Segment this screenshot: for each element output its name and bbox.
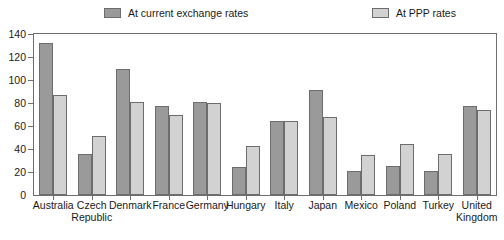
x-tick-label: Japan [308, 199, 337, 211]
bar-group [155, 34, 183, 195]
x-tick-mark [477, 196, 478, 200]
x-tick-label: CzechRepublic [71, 199, 112, 223]
x-tick-label-line: United [462, 199, 492, 211]
bar [155, 106, 169, 195]
x-tick-label: Italy [275, 199, 294, 211]
bar [53, 95, 67, 195]
legend-swatch-icon-series-0 [104, 8, 121, 18]
x-tick-mark [130, 196, 131, 200]
bar-group [309, 34, 337, 195]
x-tick-label: Australia [33, 199, 74, 211]
x-tick-label-line: Australia [33, 199, 74, 211]
x-tick-label-line: Mexico [345, 199, 378, 211]
x-tick-label-line: Kingdom [456, 211, 497, 223]
bar [347, 171, 361, 195]
x-tick-label: France [152, 199, 185, 211]
bar [116, 69, 130, 196]
bar-group [78, 34, 106, 195]
bar-group [347, 34, 375, 195]
x-tick-label: Turkey [422, 199, 454, 211]
chart-legend: At current exchange rates At PPP rates [0, 7, 504, 25]
bar [323, 117, 337, 195]
bar-group [116, 34, 144, 195]
x-tick-label-line: Czech [77, 199, 107, 211]
bar [207, 103, 221, 195]
x-tick-mark [92, 196, 93, 200]
x-tick-mark [323, 196, 324, 200]
bar-groups [34, 34, 496, 195]
x-tick-label: Mexico [345, 199, 378, 211]
legend-label-series-1: At PPP rates [396, 7, 456, 19]
bar [463, 106, 477, 195]
bar-group [463, 34, 491, 195]
bar-group [424, 34, 452, 195]
legend-item-at-ppp-rates: At PPP rates [372, 7, 456, 19]
x-tick-label-line: Hungary [226, 199, 266, 211]
bar [130, 102, 144, 195]
x-tick-label: Denmark [109, 199, 152, 211]
bar-group [39, 34, 67, 195]
x-tick-label: Poland [383, 199, 416, 211]
x-tick-label-line: France [152, 199, 185, 211]
bar-group [232, 34, 260, 195]
x-tick-mark [246, 196, 247, 200]
bar [270, 121, 284, 195]
bar [438, 154, 452, 195]
bar [193, 102, 207, 195]
bar [477, 110, 491, 195]
bar-group [386, 34, 414, 195]
bar [400, 144, 414, 195]
bar-group [193, 34, 221, 195]
x-tick-label-line: Republic [71, 211, 112, 223]
x-tick-mark [361, 196, 362, 200]
x-tick-mark [400, 196, 401, 200]
x-tick-mark [284, 196, 285, 200]
x-tick-label-line: Denmark [109, 199, 152, 211]
bar [78, 154, 92, 195]
x-tick-mark [169, 196, 170, 200]
x-tick-label-line: Poland [383, 199, 416, 211]
x-tick-label: Hungary [226, 199, 266, 211]
x-tick-label: UnitedKingdom [456, 199, 497, 223]
x-tick-mark [53, 196, 54, 200]
bar [284, 121, 298, 195]
y-tick-label: 140 [8, 29, 26, 39]
y-tick-label: 40 [14, 144, 26, 154]
x-tick-label-line: Japan [308, 199, 337, 211]
legend-label-series-0: At current exchange rates [128, 7, 248, 19]
x-tick-mark [438, 196, 439, 200]
y-tick-label: 60 [14, 121, 26, 131]
x-tick-label: Germany [186, 199, 229, 211]
bar [386, 166, 400, 195]
x-tick-mark [207, 196, 208, 200]
bar [424, 171, 438, 195]
x-tick-label-line: Italy [275, 199, 294, 211]
legend-item-at-current-exchange-rates: At current exchange rates [104, 7, 248, 19]
legend-swatch-icon-series-1 [372, 8, 389, 18]
bar-group [270, 34, 298, 195]
bar [361, 155, 375, 195]
bar [169, 115, 183, 196]
bar [232, 167, 246, 195]
x-axis: AustraliaCzechRepublicDenmarkFranceGerma… [0, 199, 504, 239]
y-tick-label: 20 [14, 167, 26, 177]
bar-chart: At current exchange rates At PPP rates 0… [0, 0, 504, 240]
y-tick-label: 100 [8, 75, 26, 85]
x-tick-label-line: Germany [186, 199, 229, 211]
bar [92, 136, 106, 195]
y-tick-label: 80 [14, 98, 26, 108]
x-tick-label-line: Turkey [422, 199, 454, 211]
bar [309, 90, 323, 195]
y-tick-label: 120 [8, 52, 26, 62]
bar [246, 146, 260, 195]
bar [39, 43, 53, 195]
